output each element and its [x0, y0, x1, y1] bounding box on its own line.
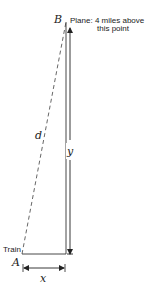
- vertex-label-b: B: [53, 13, 62, 26]
- train-label: Train: [3, 245, 21, 254]
- horizontal-label-x: x: [40, 272, 47, 285]
- triangle-diagram: B Plane: 4 miles above this point d y Tr…: [0, 0, 151, 296]
- plane-label-line2: this point: [97, 24, 130, 33]
- hypotenuse-label-d: d: [35, 129, 42, 142]
- vertex-label-a: A: [11, 256, 20, 269]
- hypotenuse-dashed-line: [22, 22, 66, 254]
- vertical-label-y: y: [66, 145, 74, 158]
